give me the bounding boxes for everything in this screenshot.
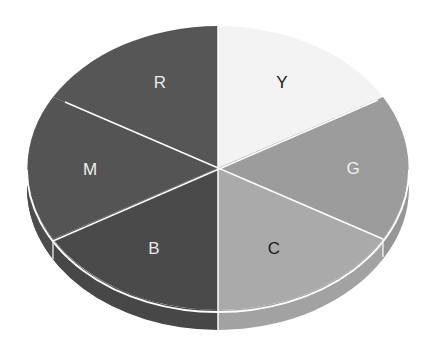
label-b: B <box>148 239 159 258</box>
label-c: C <box>268 239 280 258</box>
label-r: R <box>154 73 166 92</box>
label-g: G <box>346 159 359 178</box>
label-y: Y <box>276 73 287 92</box>
pie-chart: R Y G C B M <box>0 0 430 355</box>
label-m: M <box>83 160 97 179</box>
